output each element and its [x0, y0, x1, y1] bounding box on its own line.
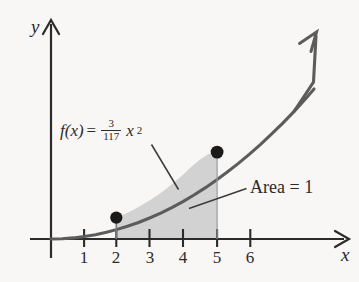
- x-tick-label-2: 2: [106, 249, 126, 266]
- x-tick-label-6: 6: [240, 249, 260, 266]
- function-area-figure: y x 1 2 3 4 5 6 f(x) = 3 117 x2 Area = 1: [0, 0, 359, 282]
- function-label-exponent: 2: [137, 125, 143, 136]
- function-label-fraction: 3 117: [101, 118, 121, 142]
- function-label-variable: x: [126, 122, 134, 139]
- function-label-leader-line: [152, 145, 179, 190]
- area-label-name: Area: [250, 177, 285, 197]
- fraction-numerator: 3: [106, 118, 116, 130]
- point-x5: [211, 146, 224, 159]
- function-label: f(x) = 3 117 x2: [60, 118, 142, 142]
- area-label-value: 1: [304, 177, 313, 197]
- x-tick-label-1: 1: [74, 249, 94, 266]
- x-tick-label-4: 4: [173, 249, 193, 266]
- point-x2: [110, 212, 122, 224]
- x-tick-label-3: 3: [140, 249, 160, 266]
- function-label-equals: =: [87, 122, 97, 139]
- fraction-denominator: 117: [101, 130, 121, 143]
- y-axis-label: y: [31, 17, 39, 36]
- function-label-lhs: f(x): [60, 122, 84, 139]
- x-axis-label: x: [341, 245, 349, 264]
- x-tick-label-5: 5: [207, 249, 227, 266]
- area-label: Area = 1: [250, 178, 313, 196]
- area-label-equals: =: [289, 177, 299, 197]
- graph-canvas: [0, 0, 359, 282]
